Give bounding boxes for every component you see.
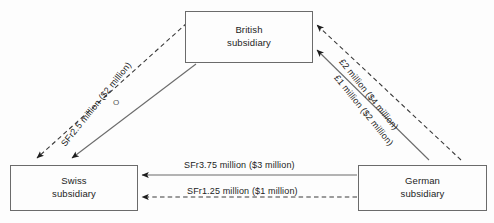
edge-label-german-to-swiss-solid: SFr3.75 million ($3 million) [184, 160, 295, 170]
node-swiss-subsidiary[interactable]: Swiss subsidiary [10, 165, 138, 211]
edge-label-german-to-swiss-dashed: SFr1.25 million ($1 million) [187, 186, 298, 196]
diagram-canvas: British subsidiary Swiss subsidiary Germ… [0, 0, 494, 223]
node-german-label-line1: German [405, 175, 440, 188]
node-german-subsidiary[interactable]: German subsidiary [358, 165, 487, 211]
node-swiss-label-line2: subsidiary [52, 188, 96, 201]
node-british-label-line1: British [235, 24, 262, 37]
node-british-subsidiary[interactable]: British subsidiary [185, 11, 313, 63]
node-swiss-label-line1: Swiss [61, 175, 86, 188]
node-german-label-line2: subsidiary [401, 188, 445, 201]
stray-mark-artifact: O [113, 98, 119, 107]
node-british-label-line2: subsidiary [227, 37, 271, 50]
